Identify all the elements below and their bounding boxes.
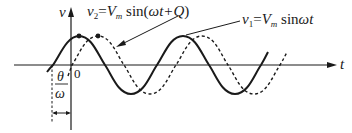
v-axis-label: v [59, 5, 66, 20]
phase-denominator: ω [55, 87, 65, 101]
v-axis-arrow-icon [68, 7, 74, 17]
v1-amp-sub: m [271, 19, 278, 29]
v2-equation-label: v2=Vm sin(ωt+Q) [87, 4, 189, 21]
v1-eq: = [253, 11, 261, 27]
v2-arg: ωt+Q [149, 3, 185, 19]
v1-arg: ωt [299, 11, 314, 27]
v2-peak-dot [96, 34, 101, 39]
v2-eq: = [98, 3, 106, 19]
phase-numerator: θ [57, 70, 64, 84]
v2-pointer-arrow-icon [116, 40, 126, 47]
v1-label-pointer [186, 21, 240, 35]
v1-var: v [242, 11, 249, 27]
t-axis-label: t [340, 57, 344, 72]
v1-peak-dot [77, 34, 82, 39]
v2-amp: V [107, 3, 116, 19]
v2-fn: sin [126, 3, 144, 19]
phase-arrow-right-icon [66, 111, 71, 115]
v2-amp-sub: m [116, 11, 123, 21]
t-axis-arrow-icon [327, 62, 337, 68]
phase-arrow-left-icon [52, 111, 57, 115]
v1-amp: V [262, 11, 271, 27]
v2-paren-close: ) [184, 3, 189, 19]
v1-equation-label: v1=Vm sinωt [242, 12, 313, 29]
origin-label: 0 [74, 67, 81, 80]
v1-fn: sin [281, 11, 299, 27]
v2-var: v [87, 3, 94, 19]
